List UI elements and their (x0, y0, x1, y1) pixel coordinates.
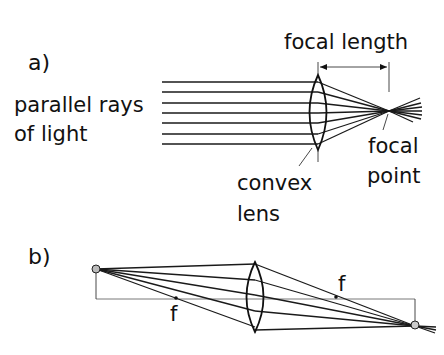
focal-point-left-dot (174, 296, 178, 300)
parallel-rays-label-line1: parallel rays (14, 93, 144, 117)
convex-lens-b (247, 262, 264, 332)
focal-point-leader (383, 114, 388, 130)
image-rays (255, 264, 436, 333)
focal-point-label-line1: focal (368, 134, 419, 158)
convex-lens-label-line2: lens (237, 202, 280, 226)
object-point-icon (92, 265, 100, 273)
panel-b-label: b) (28, 244, 51, 269)
image-point-icon (411, 321, 419, 329)
panel-a-label: a) (28, 50, 50, 75)
parallel-rays (162, 82, 318, 144)
focal-point-left-label: f (170, 302, 178, 326)
focal-point-right-label: f (338, 272, 346, 296)
parallel-rays-label-line2: of light (14, 122, 87, 146)
focal-point-label-line2: point (367, 164, 421, 188)
convex-lens-diagram: a) parallel rays of light (0, 0, 444, 355)
panel-b: b) f (28, 244, 436, 333)
focal-length-label: focal length (284, 30, 408, 54)
panel-a: a) parallel rays of light (14, 30, 422, 226)
convex-lens-label-line1: convex (237, 171, 312, 195)
lens-leader (299, 148, 312, 166)
